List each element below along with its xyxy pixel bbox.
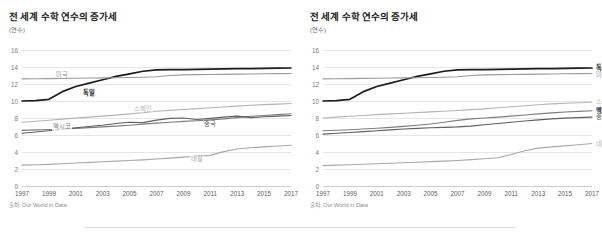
- line-series-미국: [323, 73, 592, 78]
- series-lines: [323, 50, 592, 186]
- chart-unit-label-left: (연수): [9, 25, 25, 34]
- source-note-left: 출처: Our World in Data: [9, 201, 67, 209]
- x-axis-tick-2017: 2017: [585, 190, 599, 197]
- line-series-네팔: [22, 145, 291, 165]
- series-label-미국: 미국: [595, 71, 602, 77]
- x-axis-tick-2003: 2003: [96, 190, 110, 197]
- y-axis-tick-16: 16: [312, 47, 319, 54]
- x-axis-tick-1997: 1997: [316, 190, 330, 197]
- y-axis-tick-6: 6: [315, 132, 319, 139]
- y-axis-tick-10: 10: [312, 98, 319, 105]
- y-axis-tick-2: 2: [315, 166, 319, 173]
- gridline-y-0: [22, 186, 291, 187]
- chart-title-left: 전 세계 수학 연수의 증가세: [9, 9, 117, 23]
- series-label-중국: 중국: [203, 121, 217, 127]
- bottom-divider: [85, 227, 515, 228]
- x-axis-tick-2013: 2013: [230, 190, 244, 197]
- line-series-네팔: [323, 144, 592, 166]
- source-note-right: 출처: Our World in Data: [310, 201, 368, 209]
- y-axis-tick-10: 10: [11, 98, 18, 105]
- x-axis-tick-2009: 2009: [176, 190, 190, 197]
- plot-area-right: 0246810121416199719992001200320052007200…: [323, 50, 592, 186]
- x-axis-tick-2007: 2007: [149, 190, 163, 197]
- x-axis-tick-1999: 1999: [42, 190, 56, 197]
- x-axis-tick-2011: 2011: [505, 190, 519, 197]
- y-axis-tick-8: 8: [315, 115, 319, 122]
- x-axis-tick-2001: 2001: [370, 190, 384, 197]
- x-axis-tick-2005: 2005: [424, 190, 438, 197]
- y-axis-tick-2: 2: [14, 166, 18, 173]
- line-series-스페인: [22, 104, 291, 123]
- x-axis-tick-2001: 2001: [69, 190, 83, 197]
- y-axis-tick-16: 16: [11, 47, 18, 54]
- line-series-중국: [323, 117, 592, 134]
- series-label-멕시코: 멕시코: [52, 124, 72, 130]
- x-axis-tick-2013: 2013: [531, 190, 545, 197]
- x-axis-tick-2011: 2011: [204, 190, 218, 197]
- series-label-미국: 미국: [55, 71, 69, 77]
- x-axis-tick-2005: 2005: [123, 190, 137, 197]
- series-label-스페인: 스페인: [595, 99, 602, 105]
- line-series-스페인: [323, 102, 592, 118]
- screenshot-root: 전 세계 수학 연수의 증가세 (연수) 0246810121416199719…: [0, 0, 602, 236]
- plot-area-left: 0246810121416199719992001200320052007200…: [22, 50, 291, 186]
- x-axis-tick-1999: 1999: [343, 190, 357, 197]
- series-label-독일: 독일: [82, 89, 96, 95]
- chart-panel-left: 전 세계 수학 연수의 증가세 (연수) 0246810121416199719…: [0, 0, 301, 220]
- y-axis-tick-8: 8: [14, 115, 18, 122]
- line-series-독일: [323, 68, 592, 101]
- chart-title-right: 전 세계 수학 연수의 증가세: [310, 9, 418, 23]
- y-axis-tick-0: 0: [315, 183, 319, 190]
- x-axis-tick-2009: 2009: [477, 190, 491, 197]
- series-label-네팔: 네팔: [595, 140, 602, 146]
- y-axis-tick-0: 0: [14, 183, 18, 190]
- line-series-멕시코: [323, 111, 592, 131]
- x-axis-tick-2015: 2015: [257, 190, 271, 197]
- series-label-중국: 중국: [595, 114, 602, 120]
- x-axis-tick-2003: 2003: [397, 190, 411, 197]
- gridline-y-0: [323, 186, 592, 187]
- chart-panel-right: 전 세계 수학 연수의 증가세 (연수) 0246810121416199719…: [301, 0, 602, 220]
- y-axis-tick-12: 12: [312, 81, 319, 88]
- y-axis-tick-6: 6: [14, 132, 18, 139]
- x-axis-tick-1997: 1997: [15, 190, 29, 197]
- x-axis-tick-2007: 2007: [450, 190, 464, 197]
- y-axis-tick-14: 14: [11, 64, 18, 71]
- series-label-스페인: 스페인: [133, 105, 153, 111]
- y-axis-tick-12: 12: [11, 81, 18, 88]
- y-axis-tick-4: 4: [14, 149, 18, 156]
- series-label-네팔: 네팔: [190, 156, 204, 162]
- x-axis-tick-2017: 2017: [284, 190, 298, 197]
- y-axis-tick-14: 14: [312, 64, 319, 71]
- x-axis-tick-2015: 2015: [558, 190, 572, 197]
- y-axis-tick-4: 4: [315, 149, 319, 156]
- chart-unit-label-right: (연수): [310, 25, 326, 34]
